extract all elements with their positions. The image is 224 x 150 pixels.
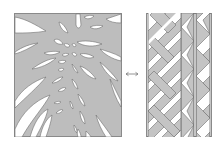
- zigzag-column-2: [196, 13, 210, 137]
- organic-pattern-panel: [14, 13, 122, 137]
- zigzag-column-1: [181, 13, 194, 137]
- geometric-pattern-panel: [146, 13, 212, 137]
- geometric-pattern-graphic: [146, 13, 212, 137]
- organic-pattern-graphic: [14, 13, 122, 137]
- double-arrow-icon: [124, 67, 140, 81]
